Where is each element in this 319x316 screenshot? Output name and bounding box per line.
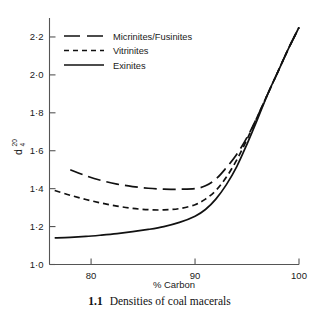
y-tick-label: 1·4: [30, 183, 44, 194]
y-tick-label: 1·0: [30, 259, 44, 270]
legend-label: Vitrinites: [113, 46, 149, 56]
chart-axes: [50, 18, 300, 265]
x-axis-title: % Carbon: [153, 279, 195, 290]
figure-container: 1·01·21·41·61·82·02·2 8090100 d 20 4 % C…: [0, 0, 319, 316]
series-line-micrinites-fusinites: [70, 27, 299, 189]
legend-label: Exinites: [113, 61, 146, 71]
chart-legend: Micrinites/FusinitesVitrinitesExinites: [64, 32, 192, 71]
series-line-vitrinites: [55, 27, 299, 210]
figure-caption-number: 1.1: [88, 295, 102, 307]
y-axis-title: d 20 4: [11, 139, 26, 155]
legend-label: Micrinites/Fusinites: [113, 32, 192, 42]
y-tick-label: 1·8: [30, 107, 44, 118]
x-tick-label: 80: [86, 270, 97, 281]
y-axis-title-base: d: [12, 149, 24, 155]
figure-caption: 1.1Densities of coal macerals: [0, 295, 319, 307]
y-tick-label: 2·2: [30, 31, 44, 42]
chart-series-group: [55, 27, 299, 237]
y-tick-label: 1·6: [30, 145, 44, 156]
y-axis-title-superscript: 20: [11, 139, 18, 147]
series-line-exinites: [55, 27, 299, 237]
y-axis-ticks: 1·01·21·41·61·82·02·2: [30, 31, 56, 270]
y-tick-label: 1·2: [30, 221, 44, 232]
x-axis-ticks: 8090100: [86, 259, 307, 281]
chart-plot: 1·01·21·41·61·82·02·2 8090100 d 20 4 % C…: [0, 0, 319, 316]
y-axis-title-subscript: 4: [19, 143, 26, 147]
figure-caption-text: Densities of coal macerals: [110, 295, 231, 307]
x-tick-label: 100: [291, 270, 307, 281]
y-tick-label: 2·0: [30, 69, 44, 80]
